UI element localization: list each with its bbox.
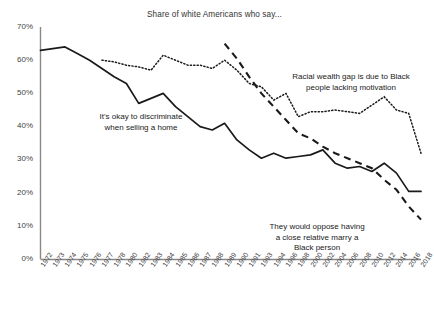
- annotation-oppose-marry: They would oppose having a close relativ…: [238, 222, 396, 254]
- y-tick-label: 40%: [3, 121, 33, 130]
- y-tick-label: 70%: [3, 22, 33, 31]
- y-tick-label: 50%: [3, 88, 33, 97]
- y-tick-label: 0%: [3, 254, 33, 263]
- y-tick-label: 10%: [3, 221, 33, 230]
- annotation-discriminate-home: It's okay to discriminate when selling a…: [75, 112, 207, 133]
- series-line-oppose-marry: [225, 44, 421, 220]
- y-tick-label: 20%: [3, 188, 33, 197]
- series-line-wealth-gap: [102, 55, 421, 153]
- annotation-wealth-gap: Racial wealth gap is due to Black people…: [272, 72, 430, 93]
- y-tick-label: 60%: [3, 55, 33, 64]
- y-tick-label: 30%: [3, 154, 33, 163]
